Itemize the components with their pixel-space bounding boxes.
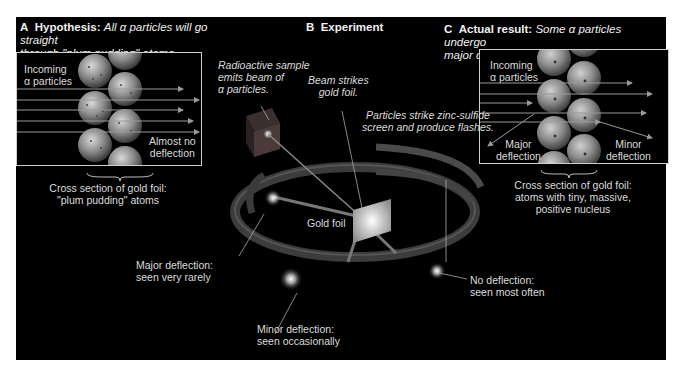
no-deflection-label: No deflection: seen most often: [470, 274, 545, 298]
experiment-apparatus-illustration: [16, 17, 666, 360]
radioactive-sample-label: Radioactive sample emits beam of α parti…: [218, 59, 310, 95]
zinc-sulfide-screen-label: Particles strike zinc-sulfide screen and…: [362, 109, 494, 133]
minor-deflection-label: Minor deflection: seen occasionally: [257, 323, 340, 347]
major-deflection-label: Major deflection: seen very rarely: [136, 259, 213, 283]
gold-foil-label: Gold foil: [307, 217, 346, 229]
diagram-canvas: A Hypothesis: All α particles will go st…: [16, 17, 666, 360]
beam-strikes-label: Beam strikes gold foil.: [308, 74, 369, 98]
